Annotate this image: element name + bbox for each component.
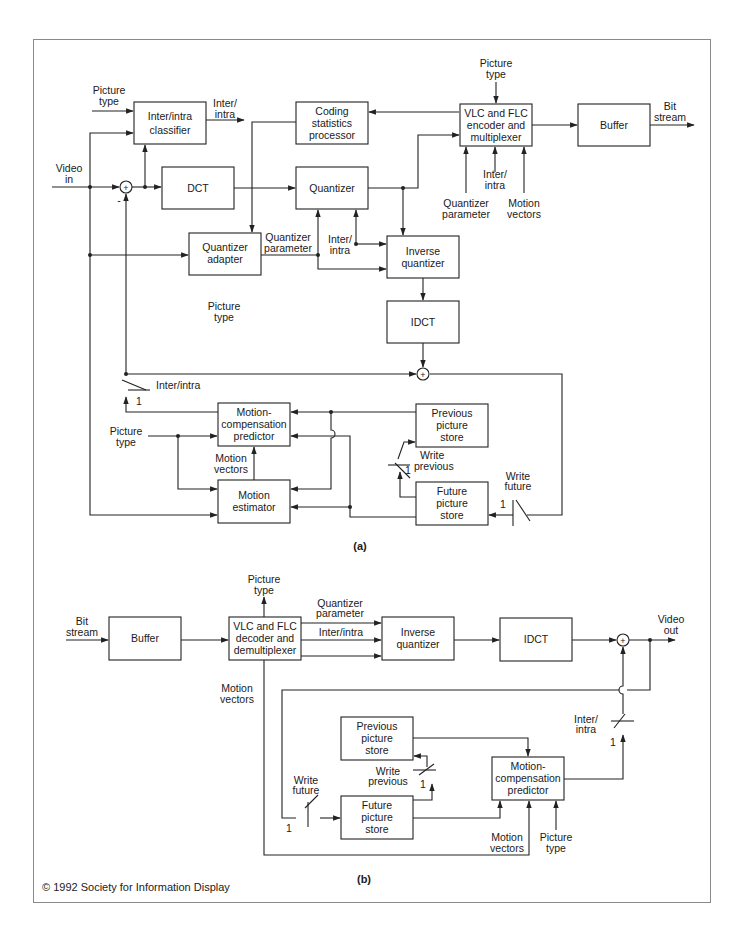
svg-text:IDCT: IDCT xyxy=(524,633,549,645)
svg-text:picture: picture xyxy=(436,497,468,509)
svg-text:decoder and: decoder and xyxy=(236,632,295,644)
caption-a: (a) xyxy=(353,540,367,552)
encoder-buffer-block: Buffer xyxy=(578,104,650,146)
decoder-diagram: Buffer VLC and FLC decoder and demultipl… xyxy=(66,573,685,885)
label-inter-intra: Inter/intra xyxy=(319,626,364,638)
svg-text:classifier: classifier xyxy=(150,124,191,136)
svg-text:type: type xyxy=(254,584,274,596)
svg-text:IDCT: IDCT xyxy=(411,316,436,328)
label-minus-sign: - xyxy=(117,194,121,206)
coding-statistics-processor-block: Coding statistics processor xyxy=(296,102,368,144)
inter-intra-classifier-block: Inter/intra classifier xyxy=(134,102,206,144)
svg-text:VLC and FLC: VLC and FLC xyxy=(464,107,528,119)
copyright-notice: © 1992 Society for Information Display xyxy=(42,881,230,893)
vlc-decoder-demultiplexer-block: VLC and FLC decoder and demultiplexer xyxy=(229,617,301,660)
svg-text:predictor: predictor xyxy=(234,430,275,442)
decoder-future-picture-store-block: Future picture store xyxy=(341,796,413,839)
svg-text:multiplexer: multiplexer xyxy=(471,131,522,143)
decoder-idct-block: IDCT xyxy=(500,618,572,661)
label-write-previous-1: 1 xyxy=(405,464,411,476)
svg-text:adapter: adapter xyxy=(207,253,243,265)
svg-text:type: type xyxy=(546,842,566,854)
svg-text:Buffer: Buffer xyxy=(131,632,159,644)
svg-text:Quantizer: Quantizer xyxy=(202,241,248,253)
svg-text:Buffer: Buffer xyxy=(600,119,628,131)
svg-text:Quantizer: Quantizer xyxy=(309,182,355,194)
svg-text:store: store xyxy=(365,744,389,756)
decoder-inverse-quantizer-block: Inverse quantizer xyxy=(382,617,454,660)
svg-text:vectors: vectors xyxy=(220,693,254,705)
svg-text:parameter: parameter xyxy=(316,607,364,619)
decoder-adder: + xyxy=(617,634,629,646)
motion-estimator-block: Motion estimator xyxy=(218,480,290,523)
svg-text:vectors: vectors xyxy=(490,842,524,854)
svg-text:Motion-: Motion- xyxy=(510,760,546,772)
svg-text:compensation: compensation xyxy=(495,772,561,784)
motion-compensation-predictor-block: Motion- compensation predictor xyxy=(218,403,290,446)
svg-text:parameter: parameter xyxy=(264,242,312,254)
svg-text:Previous: Previous xyxy=(357,720,398,732)
svg-text:vectors: vectors xyxy=(507,208,541,220)
quantizer-adapter-block: Quantizer adapter xyxy=(189,233,261,275)
encoder-reconstruction-adder: + xyxy=(417,368,429,380)
idct-block: IDCT xyxy=(387,301,459,343)
svg-text:compensation: compensation xyxy=(221,418,287,430)
encoder-connections xyxy=(52,82,694,526)
label-switch-1: 1 xyxy=(136,395,142,407)
decoder-junction-dots xyxy=(648,638,652,642)
svg-text:store: store xyxy=(440,509,464,521)
caption-b: (b) xyxy=(357,873,371,885)
svg-text:Inverse: Inverse xyxy=(406,245,441,257)
svg-text:stream: stream xyxy=(66,626,98,638)
svg-text:processor: processor xyxy=(309,129,356,141)
svg-text:Inverse: Inverse xyxy=(401,626,436,638)
label-write-future-1: 1 xyxy=(286,822,292,834)
inverse-quantizer-block: Inverse quantizer xyxy=(387,236,459,278)
decoder-previous-picture-store-block: Previous picture store xyxy=(341,717,413,760)
svg-text:picture: picture xyxy=(361,732,393,744)
svg-text:parameter: parameter xyxy=(442,208,490,220)
svg-text:quantizer: quantizer xyxy=(401,257,445,269)
svg-text:type: type xyxy=(486,68,506,80)
svg-text:type: type xyxy=(116,436,136,448)
svg-text:demultiplexer: demultiplexer xyxy=(234,644,297,656)
svg-text:out: out xyxy=(664,624,679,636)
svg-text:Previous: Previous xyxy=(432,407,473,419)
encoder-diagram: Inter/intra classifier Coding statistics… xyxy=(52,57,694,552)
label-switch-1: 1 xyxy=(610,736,616,748)
svg-text:intra: intra xyxy=(215,108,236,120)
svg-text:Future: Future xyxy=(362,799,393,811)
svg-text:estimator: estimator xyxy=(232,501,276,513)
vlc-encoder-multiplexer-block: VLC and FLC encoder and multiplexer xyxy=(460,104,532,146)
svg-text:encoder and: encoder and xyxy=(467,119,526,131)
svg-text:statistics: statistics xyxy=(312,117,352,129)
svg-text:VLC and FLC: VLC and FLC xyxy=(233,620,297,632)
mpeg-codec-diagram: Inter/intra classifier Coding statistics… xyxy=(0,0,749,952)
svg-text:intra: intra xyxy=(576,723,597,735)
svg-text:quantizer: quantizer xyxy=(396,638,440,650)
svg-text:DCT: DCT xyxy=(187,182,209,194)
svg-text:store: store xyxy=(440,431,464,443)
label-write-previous-1: 1 xyxy=(420,778,426,790)
svg-text:in: in xyxy=(65,173,73,185)
label-write-future-1: 1 xyxy=(500,498,506,510)
svg-text:Inter/intra: Inter/intra xyxy=(148,110,193,122)
svg-text:intra: intra xyxy=(485,179,506,191)
svg-text:type: type xyxy=(214,311,234,323)
svg-text:+: + xyxy=(123,183,128,193)
svg-text:intra: intra xyxy=(330,244,351,256)
svg-text:store: store xyxy=(365,823,389,835)
decoder-buffer-block: Buffer xyxy=(109,617,181,660)
svg-text:future: future xyxy=(293,784,320,796)
svg-text:picture: picture xyxy=(361,811,393,823)
svg-text:picture: picture xyxy=(436,419,468,431)
quantizer-block: Quantizer xyxy=(296,167,368,209)
svg-text:previous: previous xyxy=(368,775,408,787)
svg-text:predictor: predictor xyxy=(508,784,549,796)
svg-text:vectors: vectors xyxy=(214,463,248,475)
svg-text:type: type xyxy=(99,95,119,107)
previous-picture-store-block: Previous picture store xyxy=(416,404,488,447)
svg-text:future: future xyxy=(505,480,532,492)
svg-text:Coding: Coding xyxy=(315,105,348,117)
dct-block: DCT xyxy=(162,167,234,209)
